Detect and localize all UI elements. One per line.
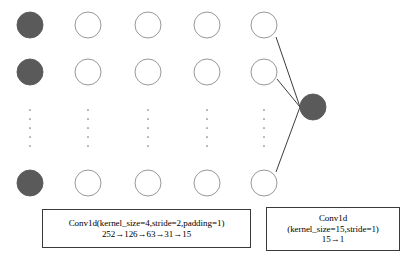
vertical-ellipsis-dot bbox=[147, 118, 149, 120]
vertical-ellipsis-dot bbox=[29, 136, 31, 138]
node-hidden-layer-1-2 bbox=[75, 59, 101, 85]
vertical-ellipsis-dot bbox=[87, 136, 89, 138]
node-hidden-layer-3-3 bbox=[194, 170, 220, 196]
edge-to-output-3 bbox=[276, 107, 300, 172]
node-hidden-layer-2-3 bbox=[135, 170, 161, 196]
conv-block-1-caption-line-1: Conv1d(kernel_size=4,stride=2,padding=1) bbox=[69, 218, 225, 229]
vertical-ellipsis-dot bbox=[206, 118, 208, 120]
conv-block-2-caption-line-3: 15→1 bbox=[322, 234, 344, 245]
vertical-ellipsis-dot bbox=[29, 118, 31, 120]
conv-block-1-caption-box: Conv1d(kernel_size=4,stride=2,padding=1)… bbox=[42, 209, 251, 248]
conv-block-2-caption-box: Conv1d (kernel_size=15,stride=1) 15→1 bbox=[266, 207, 400, 251]
vertical-ellipsis-dot bbox=[147, 109, 149, 111]
vertical-ellipsis-dot bbox=[206, 109, 208, 111]
edge-to-output-1 bbox=[276, 37, 300, 107]
conv-block-2-caption-line-1: Conv1d bbox=[319, 213, 347, 224]
vertical-ellipsis-dot bbox=[29, 145, 31, 147]
node-input-layer-1 bbox=[17, 12, 43, 38]
node-hidden-layer-4-3 bbox=[251, 170, 277, 196]
vertical-ellipsis-dot bbox=[29, 109, 31, 111]
conv-block-1-caption-line-2: 252→126→63→31→15 bbox=[102, 229, 191, 240]
node-hidden-layer-4-1 bbox=[251, 12, 277, 38]
ellipsis-group bbox=[29, 109, 265, 147]
vertical-ellipsis-dot bbox=[29, 127, 31, 129]
node-input-layer-2 bbox=[17, 59, 43, 85]
edge-to-output-2 bbox=[277, 79, 300, 107]
diagram-canvas: Conv1d(kernel_size=4,stride=2,padding=1)… bbox=[0, 0, 409, 265]
output-node bbox=[300, 94, 326, 120]
vertical-ellipsis-dot bbox=[206, 145, 208, 147]
vertical-ellipsis-dot bbox=[87, 145, 89, 147]
node-hidden-layer-2-1 bbox=[135, 12, 161, 38]
vertical-ellipsis-dot bbox=[263, 118, 265, 120]
vertical-ellipsis-dot bbox=[87, 127, 89, 129]
vertical-ellipsis-dot bbox=[263, 109, 265, 111]
vertical-ellipsis-dot bbox=[263, 145, 265, 147]
node-hidden-layer-2-2 bbox=[135, 59, 161, 85]
vertical-ellipsis-dot bbox=[147, 136, 149, 138]
vertical-ellipsis-dot bbox=[87, 109, 89, 111]
vertical-ellipsis-dot bbox=[263, 136, 265, 138]
node-hidden-layer-3-2 bbox=[194, 59, 220, 85]
vertical-ellipsis-dot bbox=[206, 136, 208, 138]
vertical-ellipsis-dot bbox=[147, 127, 149, 129]
node-hidden-layer-1-3 bbox=[75, 170, 101, 196]
edges-group bbox=[276, 37, 300, 172]
node-hidden-layer-1-1 bbox=[75, 12, 101, 38]
vertical-ellipsis-dot bbox=[206, 127, 208, 129]
vertical-ellipsis-dot bbox=[263, 127, 265, 129]
node-hidden-layer-3-1 bbox=[194, 12, 220, 38]
vertical-ellipsis-dot bbox=[147, 145, 149, 147]
node-hidden-layer-4-2 bbox=[251, 59, 277, 85]
conv-block-2-caption-line-2: (kernel_size=15,stride=1) bbox=[287, 224, 379, 235]
vertical-ellipsis-dot bbox=[87, 118, 89, 120]
node-input-layer-3 bbox=[17, 170, 43, 196]
nodes-group bbox=[17, 12, 326, 196]
